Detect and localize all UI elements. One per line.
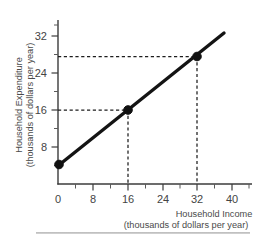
guide-lines [58, 57, 197, 185]
x-tick-label-40: 40 [226, 193, 238, 205]
y-tick-label-32: 32 [35, 30, 47, 42]
x-tick-label-8: 8 [90, 193, 96, 205]
footer-divider [36, 232, 250, 234]
expenditure-income-line-chart: 8 16 24 32 0 8 16 24 32 40 Household Exp… [0, 0, 268, 240]
x-tick-label-24: 24 [157, 193, 169, 205]
x-tick-label-32: 32 [191, 193, 203, 205]
data-point-b [124, 106, 133, 115]
chart-figure: 8 16 24 32 0 8 16 24 32 40 Household Exp… [0, 0, 268, 240]
x-tick-label-0: 0 [55, 193, 61, 205]
y-tick-label-16: 16 [35, 104, 47, 116]
x-axis-title-line1: Household Income [176, 209, 253, 219]
x-axis-title-line2: (thousands of dollars per year) [124, 220, 249, 230]
y-axis-title-line2: (thousands of dollars per year) [25, 43, 35, 168]
x-axis-major-ticks [93, 184, 232, 191]
data-point-c [193, 52, 202, 61]
data-point-a [55, 160, 64, 169]
y-tick-label-8: 8 [41, 141, 47, 153]
x-tick-label-16: 16 [122, 193, 134, 205]
y-tick-label-24: 24 [35, 67, 47, 79]
y-axis-title-line1: Household Expenditure [14, 57, 24, 153]
